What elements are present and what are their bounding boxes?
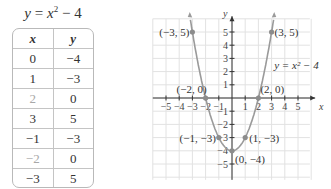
y-tick-label: −1: [217, 106, 228, 117]
y-tick-label: 1: [223, 79, 228, 90]
point-label: (−3, 5): [159, 26, 189, 39]
data-point: [190, 29, 195, 34]
parabola-graph: xy−5−4−3−2−112345−5−4−3−2−112345(−3, 5)(…: [0, 0, 331, 189]
point-label: (1, −3): [249, 132, 279, 145]
y-tick-label: 4: [223, 40, 228, 51]
curve-arrow-right-icon: [272, 12, 277, 18]
x-tick-label: 1: [243, 101, 248, 112]
data-point: [216, 135, 221, 140]
y-tick-label: −4: [217, 145, 228, 156]
point-label: (3, 5): [275, 26, 299, 39]
x-tick-label: −5: [161, 101, 172, 112]
x-tick-label: 3: [269, 101, 274, 112]
curve-equation-label: y = x² − 4: [273, 59, 319, 71]
data-point: [243, 135, 248, 140]
curve-arrow-left-icon: [188, 12, 193, 18]
point-label: (−2, 0): [177, 83, 207, 96]
y-tick-label: 5: [223, 27, 228, 38]
y-axis-label: y: [222, 8, 228, 19]
point-label: (0, −4): [235, 153, 265, 166]
y-tick-label: 2: [223, 66, 228, 77]
point-label: (−1, −3): [180, 132, 217, 145]
x-axis-label: x: [318, 101, 324, 112]
data-point: [203, 95, 208, 100]
point-label: (2, 0): [260, 83, 284, 96]
data-point: [256, 95, 261, 100]
data-point: [269, 29, 274, 34]
data-point: [229, 148, 234, 153]
x-axis-arrow-icon: [310, 96, 315, 101]
y-tick-label: 3: [223, 53, 228, 64]
y-tick-label: −5: [217, 159, 228, 170]
x-tick-label: −4: [174, 101, 185, 112]
x-tick-label: 4: [282, 101, 287, 112]
y-tick-label: −2: [217, 119, 228, 130]
x-tick-label: −3: [187, 101, 198, 112]
x-tick-label: 5: [296, 101, 301, 112]
